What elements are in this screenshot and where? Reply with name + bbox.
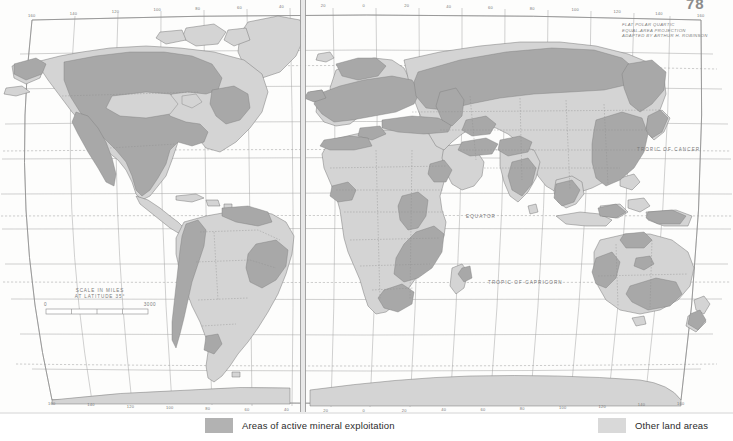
page-number: 78 xyxy=(686,0,705,12)
label-equator: EQUATOR xyxy=(466,214,496,219)
lon-label-bottom-2: 120 xyxy=(127,404,135,409)
lon-label-bottom-12: 80 xyxy=(520,406,525,411)
sri-lanka xyxy=(528,204,538,214)
lon-label-top-15: 140 xyxy=(655,11,663,16)
scale-min-value: 0 xyxy=(44,302,47,307)
lon-label-top-8: 0 xyxy=(363,3,366,8)
lon-label-top-13: 100 xyxy=(572,7,580,12)
lon-label-top-12: 80 xyxy=(530,6,535,11)
lon-label-top-6: 40 xyxy=(279,4,284,9)
falkland-islands xyxy=(232,372,240,377)
lon-label-top-5: 60 xyxy=(237,5,242,10)
lon-label-bottom-15: 140 xyxy=(638,402,646,407)
na-mineral-void-1 xyxy=(106,92,178,118)
map-page: 78 FLAT POLAR QUARTIC EQUAL-AREA PROJECT… xyxy=(0,0,733,441)
legend-label-active: Areas of active mineral exploitation xyxy=(242,420,395,431)
lon-label-bottom-3: 100 xyxy=(166,405,174,410)
scale-max-value: 3000 xyxy=(144,302,156,307)
lon-label-top-14: 120 xyxy=(613,9,621,14)
lon-label-top-9: 20 xyxy=(404,3,409,8)
legend-swatch-other xyxy=(598,418,626,433)
lon-label-bottom-4: 80 xyxy=(205,406,210,411)
hispaniola xyxy=(206,200,220,206)
legend-label-other: Other land areas xyxy=(635,420,708,431)
lon-label-top-7: 20 xyxy=(321,3,326,8)
scale-line-2: AT LATITUDE 35° xyxy=(44,294,156,300)
lon-label-bottom-0: 160 xyxy=(48,401,56,406)
lon-label-top-16: 160 xyxy=(697,13,705,18)
lon-label-top-3: 100 xyxy=(153,7,161,12)
projection-credit: FLAT POLAR QUARTIC EQUAL-AREA PROJECTION… xyxy=(622,22,733,39)
scale-numbers: 0 3000 xyxy=(44,302,156,309)
world-map: 78 FLAT POLAR QUARTIC EQUAL-AREA PROJECT… xyxy=(0,0,733,414)
scale-bar-graphic xyxy=(46,309,148,314)
lon-label-bottom-13: 100 xyxy=(559,405,567,410)
lon-label-top-4: 80 xyxy=(195,6,200,11)
label-tropic-of-capricorn: TROPIC OF CAPRICORN xyxy=(488,280,563,285)
lon-label-top-2: 120 xyxy=(112,9,120,14)
lon-label-top-10: 40 xyxy=(446,4,451,9)
label-tropic-of-cancer: TROPIC OF CANCER xyxy=(637,147,700,152)
legend-item-other-land: Other land areas xyxy=(598,418,708,433)
book-gutter xyxy=(301,0,306,414)
lon-label-bottom-14: 120 xyxy=(598,404,606,409)
scale-bar: SCALE IN MILES AT LATITUDE 35° 0 3000 xyxy=(44,288,156,309)
credit-line-3: ADAPTED BY ARTHUR H. ROBINSON xyxy=(622,33,733,39)
map-graphic xyxy=(0,0,733,414)
legend-swatch-active xyxy=(205,418,233,433)
map-legend: Areas of active mineral exploitation Oth… xyxy=(0,414,733,441)
lon-label-bottom-1: 140 xyxy=(87,402,95,407)
legend-item-active-mineral: Areas of active mineral exploitation xyxy=(205,418,395,433)
lon-label-top-1: 140 xyxy=(70,11,78,16)
lon-label-top-0: 160 xyxy=(28,13,36,18)
lon-label-bottom-16: 160 xyxy=(677,401,685,406)
lon-label-top-11: 60 xyxy=(488,5,493,10)
